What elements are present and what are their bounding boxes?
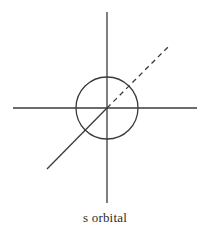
orbital-diagram-canvas xyxy=(0,0,210,241)
orbital-caption-label: s orbital xyxy=(83,209,127,227)
figure-background xyxy=(0,0,210,241)
orbital-figure: s orbital xyxy=(0,0,210,241)
caption-container: s orbital xyxy=(0,208,210,227)
